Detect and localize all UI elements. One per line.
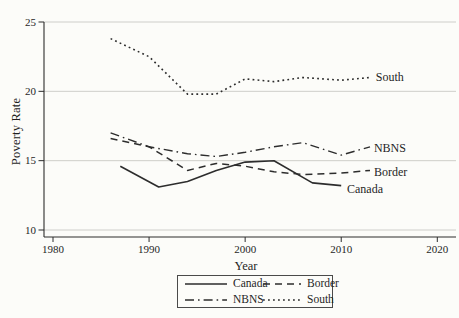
legend-entry-canada: Canada <box>184 278 262 290</box>
y-tick-label-15: 15 <box>25 154 37 166</box>
legend-line-sample-canada <box>184 280 228 288</box>
y-tick-label-25: 25 <box>25 16 37 28</box>
series-line-border <box>111 139 370 175</box>
series-label-border: Border <box>374 165 407 179</box>
poverty-rate-figure: 1015202519801990200020102020CanadaBorder… <box>0 0 459 318</box>
x-tick-label-1980: 1980 <box>42 243 65 255</box>
legend-label-nbns: NBNS <box>233 294 264 306</box>
x-axis-label: Year <box>190 259 302 274</box>
series-label-canada: Canada <box>347 182 384 196</box>
series-line-south <box>111 39 370 95</box>
x-tick-label-2020: 2020 <box>426 243 449 255</box>
series-label-south: South <box>376 70 404 84</box>
series-line-nbns <box>111 133 370 157</box>
y-tick-label-20: 20 <box>25 85 37 97</box>
legend-box: Canada Border NBNS South <box>177 275 333 308</box>
legend-label-border: Border <box>307 278 339 290</box>
legend-line-sample-nbns <box>184 296 228 304</box>
x-tick-label-2010: 2010 <box>330 243 353 255</box>
legend-label-south: South <box>307 294 334 306</box>
y-axis-label: Poverty Rate <box>9 77 24 187</box>
legend-line-sample-border <box>262 280 302 288</box>
legend-entry-border: Border <box>262 278 338 290</box>
x-tick-label-1990: 1990 <box>138 243 161 255</box>
legend-entry-nbns: NBNS <box>184 294 262 306</box>
y-tick-label-10: 10 <box>25 224 37 236</box>
legend-entry-south: South <box>262 294 338 306</box>
x-tick-label-2000: 2000 <box>234 243 257 255</box>
legend-line-sample-south <box>262 296 302 304</box>
series-label-nbns: NBNS <box>374 141 406 155</box>
